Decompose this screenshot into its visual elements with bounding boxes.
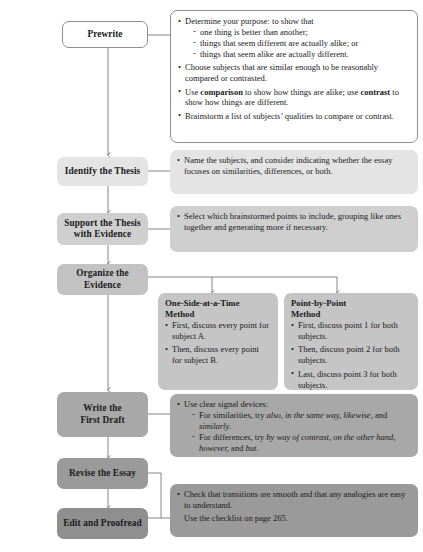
flowchart-canvas: Prewrite Identify the Thesis Support the… (0, 0, 423, 552)
list-item: For differences, try by way of contrast,… (192, 432, 410, 454)
stage-support-the-thesis[interactable]: Support the Thesis with Evidence (57, 213, 148, 245)
panel-point-by-point-list: First, discuss point 1 for both subjects… (291, 320, 410, 391)
list-item: Check that transitions are smooth and th… (177, 489, 410, 511)
list-item: Use clear signal devices: For similariti… (177, 399, 410, 454)
list-item: one thing is better than another; (193, 27, 409, 38)
panel-write-the-first-draft: Use clear signal devices: For similariti… (170, 394, 418, 457)
stage-identify-the-thesis-label: Identify the Thesis (65, 166, 141, 177)
panel-identify-the-thesis-list: Name the subjects, and consider indicati… (177, 155, 410, 177)
list-item: Brainstorm a list of subjects’ qualities… (178, 111, 409, 122)
stage-organize-the-evidence-label: Organize the Evidence (76, 268, 129, 291)
panel-edit-and-proofread: Check that transitions are smooth and th… (170, 484, 418, 537)
stage-prewrite[interactable]: Prewrite (62, 21, 148, 48)
list-item: Choose subjects that are similar enough … (178, 62, 409, 84)
wire-revise-edit-to-panel (148, 473, 170, 518)
list-item: Determine your purpose: to show that one… (178, 16, 409, 60)
panel-point-by-point-heading: Point-by-Point Method (291, 298, 410, 319)
list-item: First, discuss point 1 for both subjects… (291, 320, 410, 342)
panel-one-side-list: First, discuss every point for subject A… (165, 320, 270, 366)
stage-revise-the-essay-label: Revise the Essay (69, 468, 136, 479)
panel-draft-list: Use clear signal devices: For similariti… (177, 399, 410, 454)
stage-revise-the-essay[interactable]: Revise the Essay (57, 458, 148, 489)
stage-identify-the-thesis[interactable]: Identify the Thesis (57, 157, 148, 186)
stage-edit-and-proofread[interactable]: Edit and Proofread (57, 508, 148, 539)
panel-one-side-heading: One-Side-at-a-Time Method (165, 298, 270, 319)
list-item: For similarities, try also, in the same … (192, 410, 410, 432)
panel-draft-sublist: For similarities, try also, in the same … (184, 410, 410, 454)
panel-prewrite-list: Determine your purpose: to show that one… (178, 16, 409, 122)
list-item: things that seem different are actually … (193, 38, 409, 49)
panel-identify-the-thesis: Name the subjects, and consider indicati… (170, 150, 418, 194)
stage-write-the-first-draft[interactable]: Write the First Draft (57, 392, 148, 437)
list-item: Name the subjects, and consider indicati… (177, 155, 410, 177)
stage-support-the-thesis-label: Support the Thesis with Evidence (64, 218, 141, 241)
panel-support-the-thesis-list: Select which brainstormed points to incl… (177, 211, 410, 233)
list-item: Select which brainstormed points to incl… (177, 211, 410, 233)
panel-one-side-at-a-time-method: One-Side-at-a-Time Method First, discuss… (158, 293, 278, 390)
stage-write-the-first-draft-label: Write the First Draft (80, 403, 124, 426)
list-item: Use comparison to show how things are al… (178, 87, 409, 109)
panel-point-by-point-method: Point-by-Point Method First, discuss poi… (284, 293, 418, 390)
list-item: Then, discuss point 2 for both subjects. (291, 344, 410, 366)
panel-edit-note: Use the checklist on page 265. (177, 513, 410, 524)
panel-prewrite: Determine your purpose: to show that one… (170, 10, 418, 143)
stage-prewrite-label: Prewrite (87, 29, 122, 40)
panel-support-the-thesis: Select which brainstormed points to incl… (170, 206, 418, 252)
list-item: First, discuss every point for subject A… (165, 320, 270, 342)
stage-edit-and-proofread-label: Edit and Proofread (63, 518, 141, 529)
stage-organize-the-evidence[interactable]: Organize the Evidence (57, 264, 148, 295)
list-item: things that seem alike are actually diff… (193, 49, 409, 60)
list-item: Last, discuss point 3 for both subjects. (291, 369, 410, 391)
list-item: Then, discuss every point for subject B. (165, 344, 270, 366)
panel-edit-list: Check that transitions are smooth and th… (177, 489, 410, 524)
panel-prewrite-sublist: one thing is better than another; things… (185, 27, 409, 60)
